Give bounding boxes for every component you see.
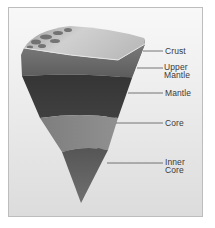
label-crust: Crust bbox=[165, 47, 186, 55]
earth-layers-wedge bbox=[0, 0, 215, 228]
layer-inner-core bbox=[62, 148, 108, 203]
label-inner-core: Inner Core bbox=[165, 158, 185, 174]
label-mantle: Mantle bbox=[165, 89, 191, 97]
layer-core bbox=[40, 115, 118, 152]
layer-mantle bbox=[22, 74, 132, 118]
label-core: Core bbox=[165, 119, 184, 127]
label-upper-mantle: Upper Mantle bbox=[164, 63, 190, 79]
